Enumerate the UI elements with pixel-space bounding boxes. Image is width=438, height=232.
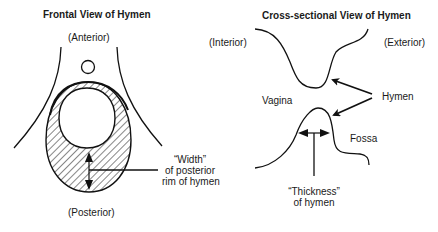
width-label: “Width” of posterior rim of hymen (162, 154, 218, 187)
thickness-label: “Thickness” of hymen (286, 186, 342, 208)
interior-label: (Interior) (209, 37, 247, 48)
vagina-label: Vagina (262, 95, 292, 106)
frontal-view (14, 47, 162, 192)
posterior-label: (Posterior) (68, 207, 115, 218)
thickness-label-line-1: “Thickness” (286, 186, 342, 197)
anterior-label: (Anterior) (68, 32, 110, 43)
width-label-line-3: rim of hymen (162, 176, 218, 187)
upper-wall-outline (255, 29, 368, 88)
thickness-label-line-2: of hymen (286, 197, 342, 208)
hymen-label: Hymen (382, 91, 414, 102)
urethral-opening (82, 61, 95, 74)
frontal-view-title: Frontal View of Hymen (43, 9, 151, 20)
cross-section-title: Cross-sectional View of Hymen (262, 10, 411, 21)
width-label-line-1: “Width” (162, 154, 218, 165)
hymen-arrow-upper (333, 80, 372, 94)
exterior-label: (Exterior) (384, 37, 425, 48)
fossa-label: Fossa (350, 133, 377, 144)
width-label-line-2: of posterior (162, 165, 218, 176)
hymen-arrow-lower (334, 98, 372, 115)
thickness-arrow-right-head (320, 129, 330, 137)
thickness-arrow-left-head (298, 129, 308, 137)
hymen-diagram (0, 0, 438, 232)
